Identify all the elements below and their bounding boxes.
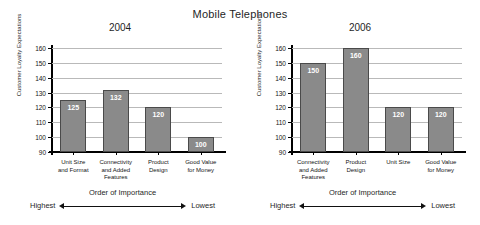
x-tick-mark [73,152,74,155]
bar: 150 [300,63,326,152]
y-axis-label-2006: Customer Loyalty Expectations [256,0,262,110]
y-tick-mark [288,48,292,49]
bar: 100 [188,137,214,152]
importance-arrow-row: Highest Lowest [30,200,215,212]
bar: 120 [385,107,411,152]
gridline [292,48,462,49]
plot-area-2006: 90100110120130140150160 150Connectivity … [292,48,462,152]
plot-area-2004: 90100110120130140150160 125Unit Size and… [52,48,222,152]
gridline [52,78,222,79]
y-tick-label: 140 [275,74,286,81]
importance-lowest-label: Lowest [431,201,455,210]
y-tick-label: 100 [35,134,46,141]
x-category-label: Connectivity and Added Features [93,159,139,182]
x-category-label: Unit Size [375,159,421,167]
y-tick-mark [288,107,292,108]
y-tick-mark [288,93,292,94]
bar: 132 [103,90,129,152]
bar-value-label: 125 [61,104,85,111]
bar: 120 [428,107,454,152]
y-tick-mark [48,78,52,79]
bar-value-label: 160 [344,52,368,59]
x-tick-mark [398,152,399,155]
importance-axis-2006: Order of Importance Highest Lowest [270,188,455,216]
x-tick-mark [441,152,442,155]
x-category-label: Good Value for Money [418,159,464,174]
importance-title: Order of Importance [270,188,455,197]
bar-value-label: 100 [189,141,213,148]
figure-root: Mobile Telephones 2004 Customer Loyalty … [0,0,480,225]
x-tick-mark [201,152,202,155]
bar-value-label: 120 [386,111,410,118]
y-axis-label-2004: Customer Loyalty Expectations [16,0,22,110]
y-axis-line [291,45,293,155]
y-tick-mark [48,63,52,64]
chart-title-2006: 2006 [240,22,480,33]
x-tick-mark [116,152,117,155]
y-tick-mark [288,63,292,64]
importance-highest-label: Highest [270,201,295,210]
y-tick-label: 150 [275,59,286,66]
chart-title-2004: 2004 [0,22,240,33]
y-tick-mark [288,152,292,153]
y-tick-label: 130 [35,89,46,96]
importance-axis-2004: Order of Importance Highest Lowest [30,188,215,216]
gridline [52,63,222,64]
y-tick-mark [48,93,52,94]
gridline [52,93,222,94]
bar-value-label: 120 [146,111,170,118]
bar-value-label: 120 [429,111,453,118]
bar-value-label: 150 [301,67,325,74]
chart-panel-2004: 2004 Customer Loyalty Expectations 90100… [0,0,240,225]
y-tick-mark [48,137,52,138]
gridline [52,48,222,49]
y-tick-mark [48,152,52,153]
bar: 120 [145,107,171,152]
x-category-label: Connectivity and Added Features [290,159,336,182]
y-tick-mark [48,122,52,123]
y-tick-label: 110 [36,119,46,126]
y-tick-mark [48,107,52,108]
bar: 160 [343,48,369,152]
importance-title: Order of Importance [30,188,215,197]
y-tick-label: 90 [279,149,286,156]
bar: 125 [60,100,86,152]
y-tick-label: 160 [35,45,46,52]
y-tick-label: 120 [35,104,46,111]
y-tick-label: 110 [276,119,286,126]
y-tick-label: 100 [275,134,286,141]
double-arrow-icon [304,206,421,207]
y-tick-label: 140 [35,74,46,81]
x-category-label: Good Value for Money [178,159,224,174]
y-tick-mark [288,122,292,123]
x-tick-mark [158,152,159,155]
bar-value-label: 132 [104,94,128,101]
y-tick-label: 160 [275,45,286,52]
y-tick-label: 120 [275,104,286,111]
x-category-label: Product Design [333,159,379,174]
y-tick-label: 130 [275,89,286,96]
y-tick-label: 90 [39,149,46,156]
chart-panel-2006: 2006 Customer Loyalty Expectations 90100… [240,0,480,225]
x-tick-mark [356,152,357,155]
x-tick-mark [313,152,314,155]
double-arrow-icon [64,206,181,207]
importance-highest-label: Highest [30,201,55,210]
y-tick-mark [48,48,52,49]
x-category-label: Unit Size and Format [50,159,96,174]
y-axis-line [51,45,53,155]
y-tick-label: 150 [35,59,46,66]
y-tick-mark [288,78,292,79]
importance-lowest-label: Lowest [191,201,215,210]
importance-arrow-row: Highest Lowest [270,200,455,212]
y-tick-mark [288,137,292,138]
x-category-label: Product Design [135,159,181,174]
